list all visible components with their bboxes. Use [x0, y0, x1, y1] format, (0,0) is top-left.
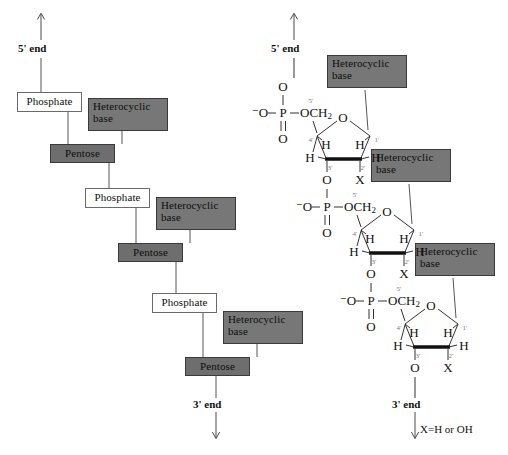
carbon-label-c2-1: 2': [361, 164, 366, 172]
structure-base-box-2[interactable]: Heterocyclic base: [371, 149, 451, 182]
structure-base-box-3[interactable]: Heterocyclic base: [415, 243, 495, 276]
och2-text-2: OCH: [344, 199, 371, 214]
structure-three-prime-label: 3' end: [392, 398, 420, 410]
carbon-label-c3-3: 3': [416, 352, 421, 360]
atom-h-c4-1: H: [321, 137, 330, 153]
structure-base-box-1[interactable]: Heterocyclic base: [327, 55, 407, 88]
schematic-three-prime-label: 3' end: [193, 398, 221, 410]
footnote-x-definition: X=H or OH: [420, 423, 473, 435]
atom-p-2: P: [323, 199, 330, 215]
atom-o-bridge-1: O: [278, 79, 287, 95]
atom-h-c2-3: H: [459, 338, 468, 354]
atom-h-c4-3: H: [409, 325, 418, 341]
atom-minus-o-2: ⁻O: [296, 199, 312, 215]
schematic-phosphate-box-1[interactable]: Phosphate: [17, 92, 82, 112]
schematic-base-box-3[interactable]: Heterocyclic base: [223, 311, 303, 344]
carbon-label-c3-1: 3': [328, 164, 333, 172]
atom-h-c3-3: H: [393, 338, 402, 354]
atom-h-c4-2: H: [365, 231, 374, 247]
atom-p-3: P: [367, 293, 374, 309]
bond-lines: [0, 0, 508, 455]
atom-o-double-1: O: [278, 131, 287, 147]
atom-o-3prime-3: O: [410, 360, 419, 376]
carbon-label-c2-2: 2': [405, 258, 410, 266]
carbon-label-c3-2: 3': [372, 258, 377, 266]
atom-h-c1-3: H: [443, 325, 452, 341]
carbon-label-c4-2: 4': [353, 230, 358, 238]
carbon-label-c5-3: 5': [397, 285, 402, 293]
atom-p-1: P: [279, 105, 286, 121]
schematic-pentose-box-1[interactable]: Pentose: [50, 144, 115, 163]
atom-o-double-3: O: [366, 319, 375, 335]
carbon-label-c1-3: 1': [463, 324, 468, 332]
carbon-label-c1-1: 1': [375, 136, 380, 144]
atom-h-c3-1: H: [305, 150, 314, 166]
atom-x-3: X: [443, 360, 452, 376]
atom-ring-o-1: O: [338, 110, 347, 126]
carbon-label-c5-2: 5': [353, 191, 358, 199]
atom-h-c1-2: H: [399, 231, 408, 247]
figure-canvas: 5' end Phosphate Heterocyclic base Pento…: [0, 0, 508, 455]
atom-h-c2-1: H: [371, 150, 380, 166]
atom-och2-2: OCH2: [344, 199, 376, 215]
carbon-label-c2-3: 2': [449, 352, 454, 360]
atom-ring-o-3: O: [426, 298, 435, 314]
schematic-five-prime-label: 5' end: [18, 42, 46, 54]
atom-o-double-2: O: [322, 225, 331, 241]
atom-h-c1-1: H: [355, 137, 364, 153]
carbon-label-c5-1: 5': [309, 97, 314, 105]
och2-text-1: OCH: [300, 105, 327, 120]
atom-o-3prime-1: O: [322, 172, 331, 188]
atom-h-c2-2: H: [415, 244, 424, 260]
atom-och2-3: OCH2: [388, 293, 420, 309]
carbon-label-c4-3: 4': [397, 324, 402, 332]
schematic-base-box-1[interactable]: Heterocyclic base: [88, 98, 168, 131]
atom-h-c3-2: H: [349, 244, 358, 260]
schematic-base-box-2[interactable]: Heterocyclic base: [156, 197, 236, 230]
carbon-label-c4-1: 4': [309, 136, 314, 144]
atom-x-2: X: [399, 266, 408, 282]
schematic-pentose-box-2[interactable]: Pentose: [118, 243, 183, 262]
schematic-phosphate-box-3[interactable]: Phosphate: [152, 293, 217, 313]
carbon-label-c1-2: 1': [419, 230, 424, 238]
structure-five-prime-label: 5' end: [271, 42, 299, 54]
atom-och2-1: OCH2: [300, 105, 332, 121]
atom-x-1: X: [355, 172, 364, 188]
och2-text-3: OCH: [388, 293, 415, 308]
atom-minus-o-1: ⁻O: [252, 105, 268, 121]
atom-ring-o-2: O: [382, 204, 391, 220]
schematic-pentose-box-3[interactable]: Pentose: [185, 357, 250, 376]
schematic-phosphate-box-2[interactable]: Phosphate: [85, 188, 150, 208]
atom-minus-o-3: ⁻O: [340, 293, 356, 309]
och2-sub-3: 2: [415, 299, 420, 309]
och2-sub-2: 2: [371, 205, 376, 215]
och2-sub-1: 2: [327, 111, 332, 121]
atom-o-3prime-2: O: [366, 266, 375, 282]
